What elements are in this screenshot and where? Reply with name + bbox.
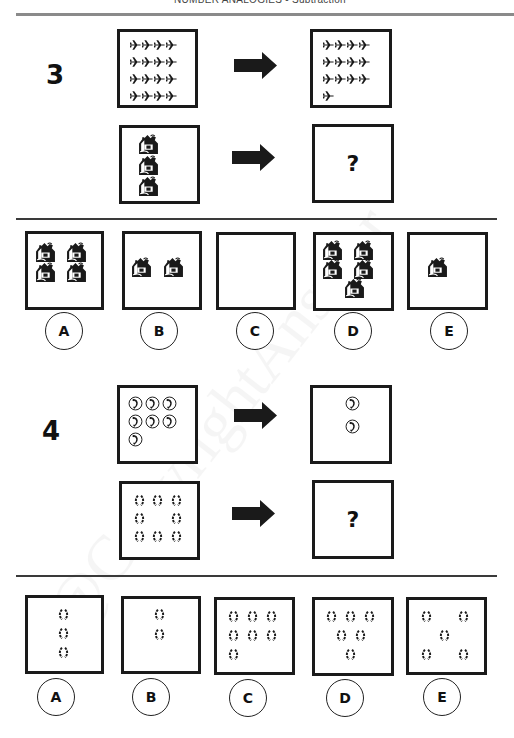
q3-example-left-box [117,29,198,108]
airplane-icon [130,39,142,51]
telephone-icon [162,396,177,411]
airplane-icon [142,56,154,68]
house-icon [353,259,374,280]
airplane-icon [154,56,166,68]
broken-circle-icon [57,627,70,640]
airplane-icon [142,39,154,51]
airplane-icon [130,73,142,85]
house-icon [66,242,87,263]
airplane-icon [166,73,178,85]
house-icon [353,240,374,261]
house-icon [138,176,159,197]
broken-circle-icon [170,512,183,525]
q4-option-a-box[interactable] [25,595,104,674]
telephone-icon [128,414,143,429]
arrow-right-icon [234,52,277,79]
broken-circle-icon [227,629,240,642]
broken-circle-icon [151,530,164,543]
q4-option-b-label[interactable]: B [132,678,170,716]
house-icon [322,259,343,280]
arrow-right-icon [234,402,277,429]
question-mark: ? [315,507,391,532]
broken-circle-icon [335,629,348,642]
q4-option-c-box[interactable] [214,597,295,675]
airplane-icon [335,39,347,51]
q4-option-e-box[interactable] [406,597,487,675]
broken-circle-icon [246,610,259,623]
house-icon [66,262,87,283]
q3-option-b-box[interactable] [122,231,202,310]
broken-circle-icon [57,608,70,621]
section-divider [16,575,497,577]
telephone-icon [162,414,177,429]
airplane-icon [347,73,359,85]
airplane-icon [142,73,154,85]
telephone-icon [128,396,143,411]
house-icon [344,278,365,299]
q3-option-e-label[interactable]: E [430,312,468,350]
airplane-icon [323,90,335,102]
broken-circle-icon [227,610,240,623]
broken-circle-icon [170,530,183,543]
house-icon [131,257,152,278]
airplane-icon [323,39,335,51]
airplane-icon [359,39,371,51]
airplane-icon [154,73,166,85]
q3-option-d-box[interactable] [313,232,394,311]
q4-option-c-label[interactable]: C [229,679,267,717]
q3-option-e-box[interactable] [407,232,488,310]
q3-problem-left-box [119,125,200,204]
house-icon [427,257,448,278]
broken-circle-icon [265,629,278,642]
broken-circle-icon [133,530,146,543]
broken-circle-icon [457,610,470,623]
house-icon [138,134,159,155]
telephone-icon [345,419,360,434]
broken-circle-icon [227,648,240,661]
telephone-icon [145,396,160,411]
arrow-right-icon [232,500,275,527]
q4-answer-box[interactable]: ? [312,480,394,559]
broken-circle-icon [265,610,278,623]
q3-option-a-box[interactable] [25,231,104,310]
q3-option-c-label[interactable]: C [236,312,274,350]
house-icon [35,262,56,283]
broken-circle-icon [457,648,470,661]
airplane-icon [359,56,371,68]
airplane-icon [323,56,335,68]
q4-problem-left-box [119,481,200,560]
q4-option-b-box[interactable] [121,596,201,674]
house-icon [35,242,56,263]
broken-circle-icon [420,648,433,661]
q3-option-c-box[interactable] [216,232,296,310]
house-icon [138,155,159,176]
airplane-icon [335,73,347,85]
telephone-icon [128,432,143,447]
q4-example-right-box [310,385,392,464]
q3-option-d-label[interactable]: D [334,312,372,350]
q3-answer-box[interactable]: ? [312,124,394,203]
q3-option-a-label[interactable]: A [45,312,83,350]
airplane-icon [142,90,154,102]
q4-example-left-box [117,385,198,464]
house-icon [163,257,184,278]
broken-circle-icon [133,512,146,525]
airplane-icon [323,73,335,85]
q4-option-d-label[interactable]: D [326,679,364,717]
telephone-icon [145,414,160,429]
telephone-icon [345,396,360,411]
q4-option-a-label[interactable]: A [37,678,75,716]
section-divider [16,218,497,220]
q3-option-b-label[interactable]: B [140,312,178,350]
broken-circle-icon [246,629,259,642]
broken-circle-icon [354,629,367,642]
question-number-3: 3 [46,62,64,88]
arrow-right-icon [232,144,275,171]
q3-example-right-box [310,29,392,108]
broken-circle-icon [344,610,357,623]
q4-option-e-label[interactable]: E [423,678,461,716]
broken-circle-icon [153,608,166,621]
q4-option-d-box[interactable] [312,597,394,676]
airplane-icon [130,56,142,68]
airplane-icon [347,56,359,68]
